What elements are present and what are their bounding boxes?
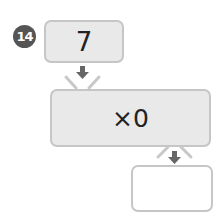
operation-box: ×0	[50, 89, 211, 147]
operation-label: ×0	[112, 104, 149, 133]
answer-box[interactable]	[131, 165, 213, 212]
down-arrow-icon	[168, 151, 181, 164]
down-arrow-icon	[76, 66, 89, 79]
